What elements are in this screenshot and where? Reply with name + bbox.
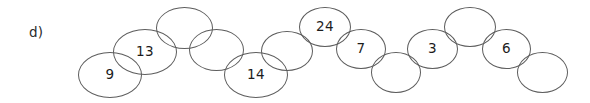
ellipse-node-value: [518, 53, 567, 92]
ellipse-chain: 9131424736: [0, 0, 590, 103]
worksheet-figure: d) 9131424736: [0, 0, 590, 103]
ellipse-node[interactable]: [517, 52, 568, 93]
